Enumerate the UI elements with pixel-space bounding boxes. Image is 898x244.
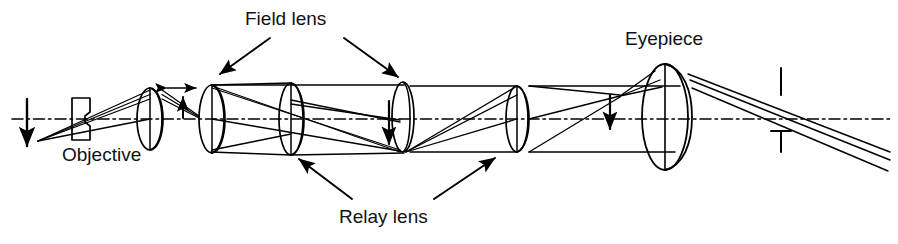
- callout-field-lens-right: [344, 38, 398, 77]
- label-eyepiece: Eyepiece: [625, 28, 703, 50]
- optical-ray-diagram: [0, 0, 898, 244]
- ray-group-object-to-objective: [38, 90, 150, 141]
- exit-pupil-tick-lower: [771, 131, 791, 152]
- ray-group-pupil-to-eyepiece: [620, 71, 662, 96]
- callout-relay-lens-left: [299, 159, 352, 199]
- label-field-lens: Field lens: [245, 8, 326, 30]
- field-lens-2: [392, 82, 414, 152]
- figure-canvas: Field lens Eyepiece Objective Relay lens: [0, 0, 898, 244]
- eyepiece-lens: [642, 64, 692, 170]
- callout-field-lens-left: [220, 38, 270, 74]
- ray-envelope-lower-mid: [291, 153, 404, 155]
- ray-group-exit: [688, 74, 890, 171]
- ray-group-objective-to-image1: [162, 90, 199, 118]
- callout-relay-lens-right: [434, 158, 495, 199]
- label-objective: Objective: [62, 144, 141, 166]
- label-relay-lens: Relay lens: [339, 206, 428, 228]
